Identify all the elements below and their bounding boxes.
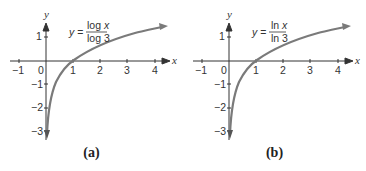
x-tick-label: 4: [335, 64, 341, 76]
x-axis-label: x: [354, 54, 360, 66]
svg-text:ln x: ln x: [271, 19, 288, 31]
y-tick-label: −3: [31, 125, 43, 137]
y-axis-label: y: [226, 8, 232, 20]
x-axis-label: x: [171, 54, 177, 66]
svg-text:y =: y =: [68, 26, 83, 38]
svg-text:y =: y =: [251, 26, 266, 38]
x-axis-arrow-icon: [162, 58, 170, 64]
equation-label: y = ln x ln 3: [251, 19, 288, 44]
x-tick-label: −1: [195, 64, 207, 76]
origin-label: 0: [221, 64, 227, 76]
curve-arrow-icon: [159, 23, 168, 30]
curve-arrow-icon: [342, 23, 351, 30]
panel-caption: (a): [0, 145, 183, 161]
svg-text:log x: log x: [87, 19, 110, 31]
origin-label: 0: [38, 64, 44, 76]
equation-label: y = log x log 3: [68, 19, 110, 44]
x-tick-label: 2: [280, 64, 286, 76]
x-tick-label: 2: [97, 64, 103, 76]
curve-down-arrow-icon: [227, 130, 233, 139]
y-axis-arrow-icon: [226, 23, 232, 31]
svg-text:log 3: log 3: [87, 32, 110, 44]
y-tick-label: −2: [214, 101, 226, 113]
x-tick-label: 1: [253, 64, 259, 76]
y-axis-arrow-icon: [43, 23, 49, 31]
y-tick-label: −1: [31, 78, 43, 90]
y-axis-label: y: [43, 8, 49, 20]
graph-panel-b: −1 0 1 2 3 4 1 −1 −2 −3 x y y = ln x ln …: [183, 0, 366, 171]
y-tick-label: −3: [214, 125, 226, 137]
curve-down-arrow-icon: [44, 130, 50, 139]
panel-caption: (b): [183, 145, 366, 161]
svg-text:ln 3: ln 3: [271, 32, 288, 44]
y-tick-label: −1: [214, 78, 226, 90]
y-tick-label: −2: [31, 101, 43, 113]
x-tick-label: 3: [124, 64, 130, 76]
ln-curve: [230, 27, 346, 134]
y-tick-label: 1: [219, 30, 225, 42]
x-tick-label: −1: [12, 64, 24, 76]
x-tick-label: 3: [307, 64, 313, 76]
x-axis-arrow-icon: [345, 58, 353, 64]
x-tick-label: 4: [152, 64, 158, 76]
x-tick-label: 1: [70, 64, 76, 76]
graph-panel-a: −1 0 1 2 3 4 1 −1 −2 −3 x y y = log x lo…: [0, 0, 183, 171]
y-tick-label: 1: [36, 30, 42, 42]
